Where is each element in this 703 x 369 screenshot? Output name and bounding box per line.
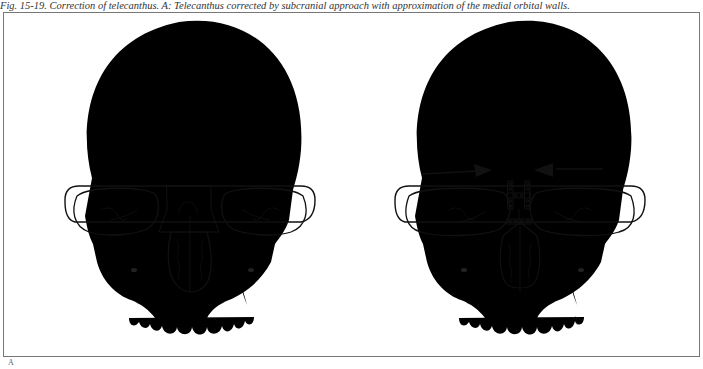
figure-illustration — [0, 0, 703, 369]
panel-label: A — [8, 358, 14, 368]
skull-after — [395, 21, 645, 335]
skull-before — [65, 21, 315, 335]
